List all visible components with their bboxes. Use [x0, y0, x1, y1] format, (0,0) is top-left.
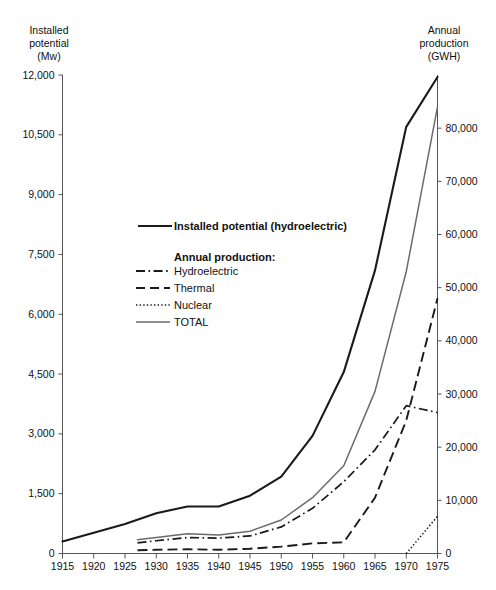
left-tick-label: 7,500 [28, 248, 54, 260]
right-tick-label: 70,000 [446, 175, 478, 187]
legend-label-installed-potential: Installed potential (hydroelectric) [174, 220, 347, 232]
left-tick-label: 4,500 [28, 368, 54, 380]
chart-legend: Installed potential (hydroelectric) Annu… [136, 220, 347, 328]
series-line-nuclear [406, 516, 437, 553]
chart-series-layer [63, 77, 438, 554]
x-tick-label: 1940 [207, 560, 231, 572]
right-tick-label: 50,000 [446, 281, 478, 293]
x-axis-tick-labels: 1915192019251930193519401945195019551960… [51, 560, 450, 572]
left-axis-tick-marks [59, 75, 63, 554]
x-tick-label: 1950 [270, 560, 294, 572]
x-tick-label: 1915 [51, 560, 75, 572]
legend-label-hydroelectric: Hydroelectric [174, 265, 239, 277]
left-tick-label: 0 [49, 547, 55, 559]
series-line-thermal [138, 298, 438, 550]
right-tick-label: 80,000 [446, 122, 478, 134]
legend-label-thermal: Thermal [174, 282, 214, 294]
legend-heading-annual-production: Annual production: [174, 251, 275, 263]
x-axis-tick-marks [63, 554, 438, 559]
x-tick-label: 1975 [426, 560, 450, 572]
right-tick-label: 40,000 [446, 334, 478, 346]
chart-container: Installed potential (Mw) Annual producti… [0, 0, 496, 590]
left-tick-label: 6,000 [28, 308, 54, 320]
series-line-hydroelectric [138, 406, 438, 543]
left-axis-tick-labels: 01,5003,0004,5006,0007,5009,00010,50012,… [22, 69, 54, 559]
right-tick-label: 10,000 [446, 494, 478, 506]
x-tick-label: 1965 [363, 560, 387, 572]
x-tick-label: 1945 [238, 560, 262, 572]
left-tick-label: 9,000 [28, 188, 54, 200]
chart-plot-area: 01,5003,0004,5006,0007,5009,00010,50012,… [0, 0, 496, 590]
right-axis-tick-marks [438, 128, 442, 553]
left-tick-label: 12,000 [22, 69, 54, 81]
left-tick-label: 1,500 [28, 487, 54, 499]
left-tick-label: 10,500 [22, 128, 54, 140]
x-tick-label: 1920 [82, 560, 106, 572]
series-line-installed-potential-hydroelectric [63, 77, 438, 542]
right-tick-label: 20,000 [446, 441, 478, 453]
right-tick-label: 30,000 [446, 388, 478, 400]
right-tick-label: 60,000 [446, 228, 478, 240]
x-tick-label: 1935 [176, 560, 200, 572]
legend-label-nuclear: Nuclear [174, 299, 212, 311]
right-axis-tick-labels: 010,00020,00030,00040,00050,00060,00070,… [446, 122, 478, 559]
left-tick-label: 3,000 [28, 427, 54, 439]
right-tick-label: 0 [446, 547, 452, 559]
x-tick-label: 1955 [301, 560, 325, 572]
x-tick-label: 1970 [395, 560, 419, 572]
x-tick-label: 1960 [332, 560, 356, 572]
legend-label-total: TOTAL [174, 316, 208, 328]
x-tick-label: 1930 [145, 560, 169, 572]
x-tick-label: 1925 [113, 560, 137, 572]
